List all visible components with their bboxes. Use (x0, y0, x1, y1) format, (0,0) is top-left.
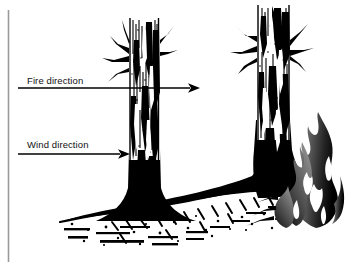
fire-direction-label: Fire direction (27, 75, 83, 86)
illustration-canvas (0, 0, 352, 268)
fire-wind-direction-figure: Fire direction Wind direction (0, 0, 352, 268)
wind-direction-arrow (18, 149, 130, 159)
right-trunk-char-texture (258, 8, 290, 182)
wind-direction-label: Wind direction (27, 139, 89, 150)
left-charred-trunk (96, 18, 196, 221)
